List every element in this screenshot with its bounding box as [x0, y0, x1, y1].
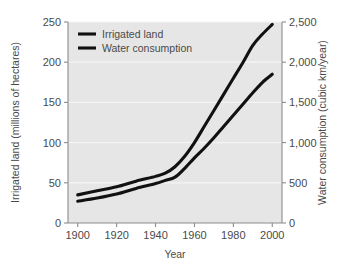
x-axis-title: Year [164, 248, 186, 260]
y-tick-label: 250 [43, 16, 61, 28]
y-tick-label: 200 [43, 56, 61, 68]
y-tick-label: 150 [43, 96, 61, 108]
x-tick-label: 2000 [260, 229, 284, 241]
y2-tick-label: 500 [289, 177, 307, 189]
x-tick-label: 1940 [143, 229, 167, 241]
y2-tick-label: 2,500 [289, 16, 317, 28]
y2-tick-label: 1,000 [289, 137, 317, 149]
x-tick-label: 1980 [221, 229, 245, 241]
x-tick-label: 1900 [65, 229, 89, 241]
chart-svg: 05010015020025005001,0001,5002,0002,5001… [0, 0, 356, 267]
y-axis-title: Irrigated land (millions of hectares) [9, 42, 21, 203]
y-tick-label: 0 [55, 217, 61, 229]
y2-tick-label: 2,000 [289, 56, 317, 68]
legend-label: Water consumption [102, 42, 192, 54]
y-tick-label: 50 [49, 177, 61, 189]
y2-axis-title: Water consumption (cubic km/year) [316, 40, 328, 205]
x-tick-label: 1960 [182, 229, 206, 241]
legend-label: Irrigated land [102, 28, 163, 40]
x-tick-label: 1920 [104, 229, 128, 241]
chart-figure: 05010015020025005001,0001,5002,0002,5001… [0, 0, 356, 267]
y2-tick-label: 1,500 [289, 96, 317, 108]
y2-tick-label: 0 [289, 217, 295, 229]
y-tick-label: 100 [43, 137, 61, 149]
